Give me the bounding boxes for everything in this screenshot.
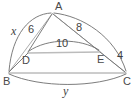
- arc-ab-path: [9, 13, 51, 71]
- vertex-label-d: D: [22, 55, 30, 66]
- measure-label-4: 4: [117, 50, 123, 61]
- measure-label-x: x: [11, 25, 16, 37]
- geometry-figure: A D E B C x 6 8 10 4 y: [0, 0, 135, 101]
- segment-de-path: [28, 52, 100, 53]
- vertex-label-a: A: [55, 1, 62, 12]
- measure-label-8: 8: [76, 22, 82, 33]
- vertex-label-e: E: [97, 54, 104, 65]
- vertex-label-c: C: [123, 76, 131, 87]
- measure-label-10: 10: [56, 38, 68, 49]
- arc-bc-path: [9, 74, 126, 85]
- vertex-label-b: B: [3, 76, 10, 87]
- measure-label-y: y: [63, 85, 68, 97]
- measure-label-6: 6: [28, 24, 34, 35]
